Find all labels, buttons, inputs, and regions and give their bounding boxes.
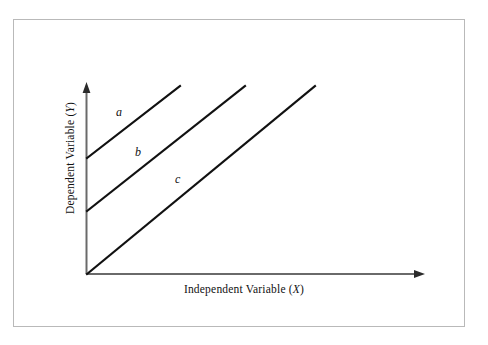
figure-page: a b c Independent Variable (X) Dependent… [0, 0, 488, 345]
y-axis-label: Dependent Variable (Y) [64, 102, 76, 214]
y-axis-label-suffix: ) [64, 102, 76, 106]
x-axis-arrowhead [414, 270, 425, 278]
x-axis-label: Independent Variable (X) [0, 283, 488, 295]
x-axis-label-variable: X [293, 283, 300, 295]
y-axis-label-prefix: Dependent Variable ( [64, 113, 76, 215]
series-label-a: a [116, 105, 122, 120]
x-axis-label-prefix: Independent Variable ( [184, 283, 293, 295]
series-label-c: c [175, 172, 180, 187]
y-axis-label-container: Dependent Variable (Y) [62, 88, 78, 228]
series-line-b [87, 86, 245, 211]
y-axis-label-variable: Y [64, 106, 76, 113]
y-axis-arrowhead [83, 82, 91, 93]
x-axis-label-suffix: ) [300, 283, 304, 295]
series-label-b: b [135, 145, 141, 160]
